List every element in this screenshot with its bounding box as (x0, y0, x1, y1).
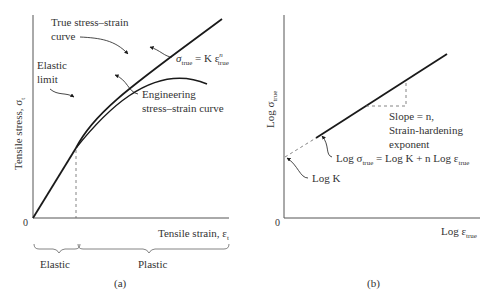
plastic-region-label: Plastic (138, 258, 167, 270)
plastic-brace (78, 244, 229, 253)
true-curve-arrow (80, 37, 128, 54)
slope-label-3: exponent (389, 138, 429, 150)
true-curve-label: True stress–strain (51, 16, 129, 28)
elastic-limit-label: Elastic (37, 59, 67, 71)
logk-label: Log K (312, 172, 340, 184)
x-axis-label-a: Tensile strain, εt (158, 227, 229, 242)
origin-b: 0 (275, 217, 280, 228)
y-axis-label-a: Tensile stress, σt (12, 98, 27, 170)
elastic-limit-arrow (50, 89, 74, 97)
panel-a: 0 True stress–strain curve Elastic limit… (12, 15, 229, 290)
log-equation-arrow (322, 136, 332, 157)
panel-b: 0 Slope = n, Strain-hardening exponent L… (264, 15, 480, 290)
elastic-line (33, 148, 76, 218)
elastic-region-label: Elastic (40, 258, 70, 270)
y-axis-label-b: Log σtrue (264, 91, 279, 128)
log-equation: Log σtrue = Log K + n Log εtrue (336, 152, 469, 167)
stress-strain-diagram: 0 True stress–strain curve Elastic limit… (0, 0, 497, 294)
slope-label: Slope = n, (389, 110, 434, 122)
elastic-limit-label-2: limit (37, 73, 58, 85)
true-curve-label-2: curve (51, 30, 76, 42)
equation-arrow (150, 47, 172, 57)
extrapolation-dashed (285, 138, 316, 157)
x-axis-label-b: Log εtrue (441, 225, 477, 240)
eng-curve-label-2: stress–strain curve (142, 102, 224, 114)
origin-a: 0 (23, 217, 28, 228)
logk-arrow (287, 158, 308, 178)
eng-curve-label: Engineering (142, 88, 196, 100)
panel-b-caption: (b) (367, 277, 380, 290)
elastic-brace (34, 244, 80, 253)
slope-label-2: Strain-hardening (389, 124, 463, 136)
panel-a-caption: (a) (114, 277, 127, 290)
power-law-equation: σtrue = K εntrue (176, 51, 229, 67)
